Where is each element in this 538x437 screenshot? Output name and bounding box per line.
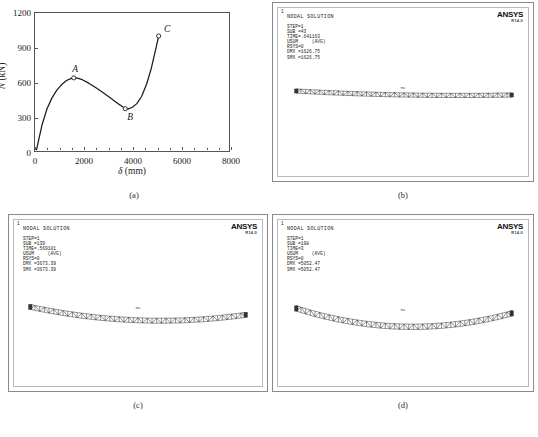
y-axis-tick-mark — [35, 83, 38, 84]
x-axis-tick-mark — [207, 148, 208, 150]
mx-marker-b: MX — [401, 86, 405, 90]
caption-b: (b) — [373, 190, 433, 200]
y-axis-label: N (kN) — [0, 63, 7, 90]
truss-geometry — [294, 89, 513, 98]
y-axis-tick-label: 600 — [18, 78, 32, 88]
x-axis-tick-mark — [145, 148, 146, 150]
x-axis-tick-mark — [47, 148, 48, 150]
x-axis-tick-mark — [96, 148, 97, 150]
x-axis-label: δ (mm) — [118, 166, 146, 176]
data-point-marker — [123, 107, 127, 111]
chart-panel-a: 0300600900120002000400060008000 N (kN) δ… — [0, 0, 268, 182]
x-axis-symbol: δ — [118, 166, 122, 176]
y-axis-tick-mark — [35, 48, 38, 49]
x-axis-tick-mark — [231, 147, 232, 150]
ansys-viewport-b: 1 NODAL SOLUTION STEP=1SUB =43TIME=.6411… — [277, 7, 529, 177]
x-axis-tick-mark — [84, 147, 85, 150]
y-axis-tick-label: 300 — [18, 113, 32, 123]
y-axis-tick-label: 0 — [27, 148, 32, 158]
ansys-panel-c: 1 NODAL SOLUTION STEP=1SUB =139TIME=.569… — [8, 214, 268, 392]
x-axis-tick-mark — [219, 148, 220, 150]
x-axis-unit: (mm) — [125, 166, 146, 176]
caption-c: (c) — [108, 400, 168, 410]
x-axis-tick-mark — [158, 148, 159, 150]
data-point-label-b: B — [127, 112, 133, 122]
y-axis-symbol: N — [0, 83, 7, 89]
x-axis-tick-mark — [182, 147, 183, 150]
x-axis-tick-mark — [121, 148, 122, 150]
x-axis-tick-mark — [60, 148, 61, 150]
x-axis-tick-mark — [133, 147, 134, 150]
y-axis-tick-label: 1200 — [13, 8, 31, 18]
load-displacement-curve — [35, 13, 229, 151]
caption-d: (d) — [373, 400, 433, 410]
mx-marker-c: MX — [136, 306, 140, 310]
deformed-truss-b — [278, 8, 528, 176]
x-axis-tick-label: 6000 — [173, 156, 191, 166]
ansys-viewport-c: 1 NODAL SOLUTION STEP=1SUB =139TIME=.569… — [13, 219, 263, 387]
plot-area: 0300600900120002000400060008000 — [34, 12, 230, 152]
x-axis-tick-label: 2000 — [75, 156, 93, 166]
x-axis-tick-label: 4000 — [124, 156, 142, 166]
deformed-truss-c — [14, 220, 262, 386]
x-axis-tick-label: 8000 — [222, 156, 240, 166]
x-axis-tick-mark — [72, 148, 73, 150]
ansys-panel-d: 1 NODAL SOLUTION STEP=1SUB =198TIME=3USU… — [272, 214, 534, 392]
y-axis-tick-label: 900 — [18, 43, 32, 53]
caption-a: (a) — [104, 190, 164, 200]
x-axis-tick-mark — [194, 148, 195, 150]
y-axis-unit: (kN) — [0, 63, 7, 81]
data-point-label-a: A — [72, 64, 78, 74]
ansys-viewport-d: 1 NODAL SOLUTION STEP=1SUB =198TIME=3USU… — [277, 219, 529, 387]
data-point-marker — [72, 76, 76, 80]
deformed-truss-d — [278, 220, 528, 386]
mx-marker-d: MX — [401, 308, 405, 312]
x-axis-tick-label: 0 — [33, 156, 38, 166]
y-axis-tick-mark — [35, 118, 38, 119]
x-axis-tick-mark — [35, 147, 36, 150]
x-axis-tick-mark — [109, 148, 110, 150]
data-point-marker — [157, 34, 161, 38]
data-point-label-c: C — [164, 24, 170, 34]
ansys-panel-b: 1 NODAL SOLUTION STEP=1SUB =43TIME=.6411… — [272, 2, 534, 182]
x-axis-tick-mark — [170, 148, 171, 150]
